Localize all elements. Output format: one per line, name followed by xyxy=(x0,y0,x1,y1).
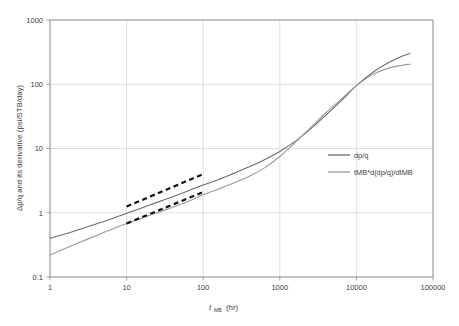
legend-label-1: tMB*d(dp/q)/dtMB xyxy=(354,168,413,177)
x-tick-label: 100 xyxy=(197,283,210,292)
log-log-diagnostic-plot: 110100100010000100000 0.11101001000 t MB… xyxy=(0,0,459,326)
y-axis-title: Δp/q and its derivative (psi/STB/day) xyxy=(15,85,24,212)
y-tick-label: 1000 xyxy=(26,16,43,25)
y-tick-label: 100 xyxy=(30,80,43,89)
x-tick-label: 100000 xyxy=(420,283,445,292)
y-tick-label: 0.1 xyxy=(33,273,43,282)
y-tick-label: 1 xyxy=(39,209,43,218)
x-axis-title-subscript: MB xyxy=(214,307,222,313)
x-tick-label: 10 xyxy=(122,283,130,292)
x-tick-label: 1000 xyxy=(271,283,288,292)
y-tick-label: 10 xyxy=(35,144,43,153)
x-tick-label: 1 xyxy=(48,283,52,292)
chart-container: 110100100010000100000 0.11101001000 t MB… xyxy=(0,0,459,326)
x-tick-label: 10000 xyxy=(346,283,367,292)
legend-label-0: dp/q xyxy=(354,151,368,160)
x-axis-title-unit: (hr) xyxy=(226,303,239,312)
